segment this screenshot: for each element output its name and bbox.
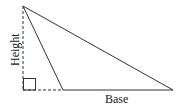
right-angle-marker	[24, 79, 36, 91]
triangle-diagram: Height Base	[0, 0, 183, 109]
triangle-side-right	[23, 6, 173, 90]
base-label: Base	[105, 92, 128, 106]
height-label: Height	[8, 33, 22, 66]
triangle-side-left	[23, 6, 63, 90]
